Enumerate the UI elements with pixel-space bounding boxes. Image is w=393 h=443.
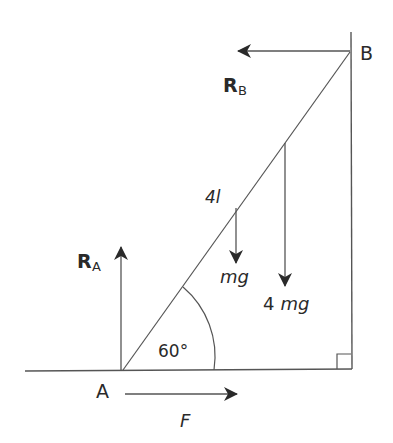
weight-load-coef: 4 bbox=[263, 293, 274, 314]
length-coef: 4 bbox=[205, 187, 216, 207]
point-b-label: B bbox=[360, 42, 373, 64]
diagram-canvas: B A R B R A 4l mg 4mg 60° F bbox=[0, 0, 393, 443]
weight-load-label: 4mg bbox=[263, 293, 309, 314]
length-unit: l bbox=[216, 187, 221, 207]
ladder-diagram: B A R B R A 4l mg 4mg 60° F bbox=[0, 0, 393, 443]
angle-label: 60° bbox=[158, 341, 188, 361]
weight-load-symbol: mg bbox=[280, 293, 309, 314]
reaction-a-subscript: A bbox=[92, 259, 101, 274]
point-a-label: A bbox=[96, 380, 109, 402]
reaction-b-subscript: B bbox=[238, 83, 247, 98]
wall-line bbox=[351, 32, 352, 369]
friction-label: F bbox=[180, 410, 191, 431]
reaction-b-label: R bbox=[223, 74, 238, 96]
length-label: 4l bbox=[205, 187, 221, 207]
weight-rod-label: mg bbox=[220, 266, 249, 287]
ground-line bbox=[25, 369, 352, 371]
reaction-a-label: R bbox=[77, 250, 92, 272]
right-angle-marker bbox=[337, 354, 351, 369]
